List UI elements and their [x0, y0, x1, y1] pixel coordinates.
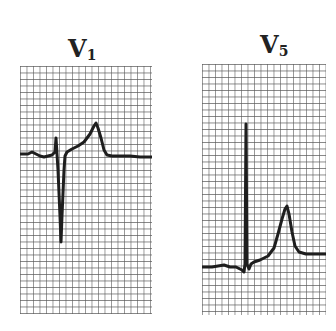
ecg-grid-v5 — [202, 64, 326, 315]
ecg-strip-v1 — [20, 66, 152, 314]
lead-subscript: 1 — [87, 47, 96, 63]
lead-letter: V — [260, 30, 278, 59]
lead-label-v5: V5 — [260, 30, 287, 59]
lead-label-v1: V1 — [68, 34, 95, 63]
lead-subscript: 5 — [279, 43, 288, 59]
ecg-grid-v1 — [20, 66, 152, 314]
ecg-strip-v5 — [202, 64, 326, 315]
lead-letter: V — [68, 34, 86, 63]
